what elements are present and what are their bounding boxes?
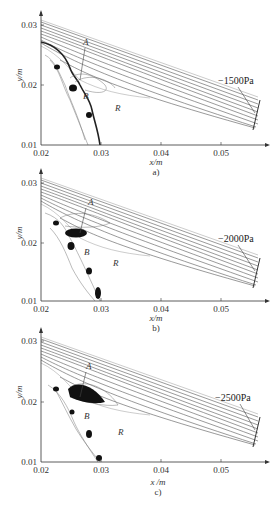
x-axis-label: x/m [149, 157, 163, 167]
x-tick: 0.02 [33, 304, 49, 314]
x-axis-label: x/m [149, 313, 163, 323]
y-tick: 0.03 [21, 178, 37, 188]
label-a: A [87, 197, 94, 207]
caption: a) [153, 167, 160, 177]
x-axis-label: x /m [149, 477, 166, 487]
caption: b) [152, 323, 160, 333]
x-tick: 0.05 [213, 465, 229, 475]
y-axis-label: y/m [14, 68, 24, 82]
label-b: B [84, 247, 90, 257]
x-tick: 0.02 [33, 465, 49, 475]
caption: c) [155, 487, 162, 497]
pressure-label: −2000Pa [218, 233, 254, 244]
x-tick: 0.03 [93, 304, 109, 314]
x-tick: 0.03 [93, 148, 109, 158]
pressure-label: −1500Pa [218, 75, 254, 86]
label-a: A [85, 361, 92, 371]
label-a: A [82, 37, 89, 47]
label-r: R [117, 427, 124, 437]
y-axis-label: y/m [14, 226, 24, 240]
x-tick: 0.04 [153, 465, 169, 475]
y-tick: 0.03 [21, 336, 37, 346]
panel-a: 0.03 0.02 0.01 0.02 0.03 0.04 0.05 x/m y… [14, 10, 270, 177]
x-tick: 0.05 [213, 304, 229, 314]
figure: 0.03 0.02 0.01 0.02 0.03 0.04 0.05 x/m y… [0, 0, 279, 510]
panel-c: 0.03 0.02 0.01 0.02 0.03 0.04 0.05 x /m … [14, 327, 270, 497]
panel-b: 0.03 0.02 0.01 0.02 0.03 0.04 0.05 x/m y… [14, 168, 270, 333]
x-tick: 0.03 [93, 465, 109, 475]
label-b: B [83, 91, 89, 101]
label-r: R [112, 258, 119, 268]
label-r: R [114, 103, 121, 113]
label-b: B [84, 411, 90, 421]
y-tick: 0.03 [21, 20, 37, 30]
pressure-label: −2500Pa [215, 392, 251, 403]
x-tick: 0.05 [213, 148, 229, 158]
x-tick: 0.02 [33, 148, 49, 158]
y-axis-label: y/m [14, 385, 24, 399]
